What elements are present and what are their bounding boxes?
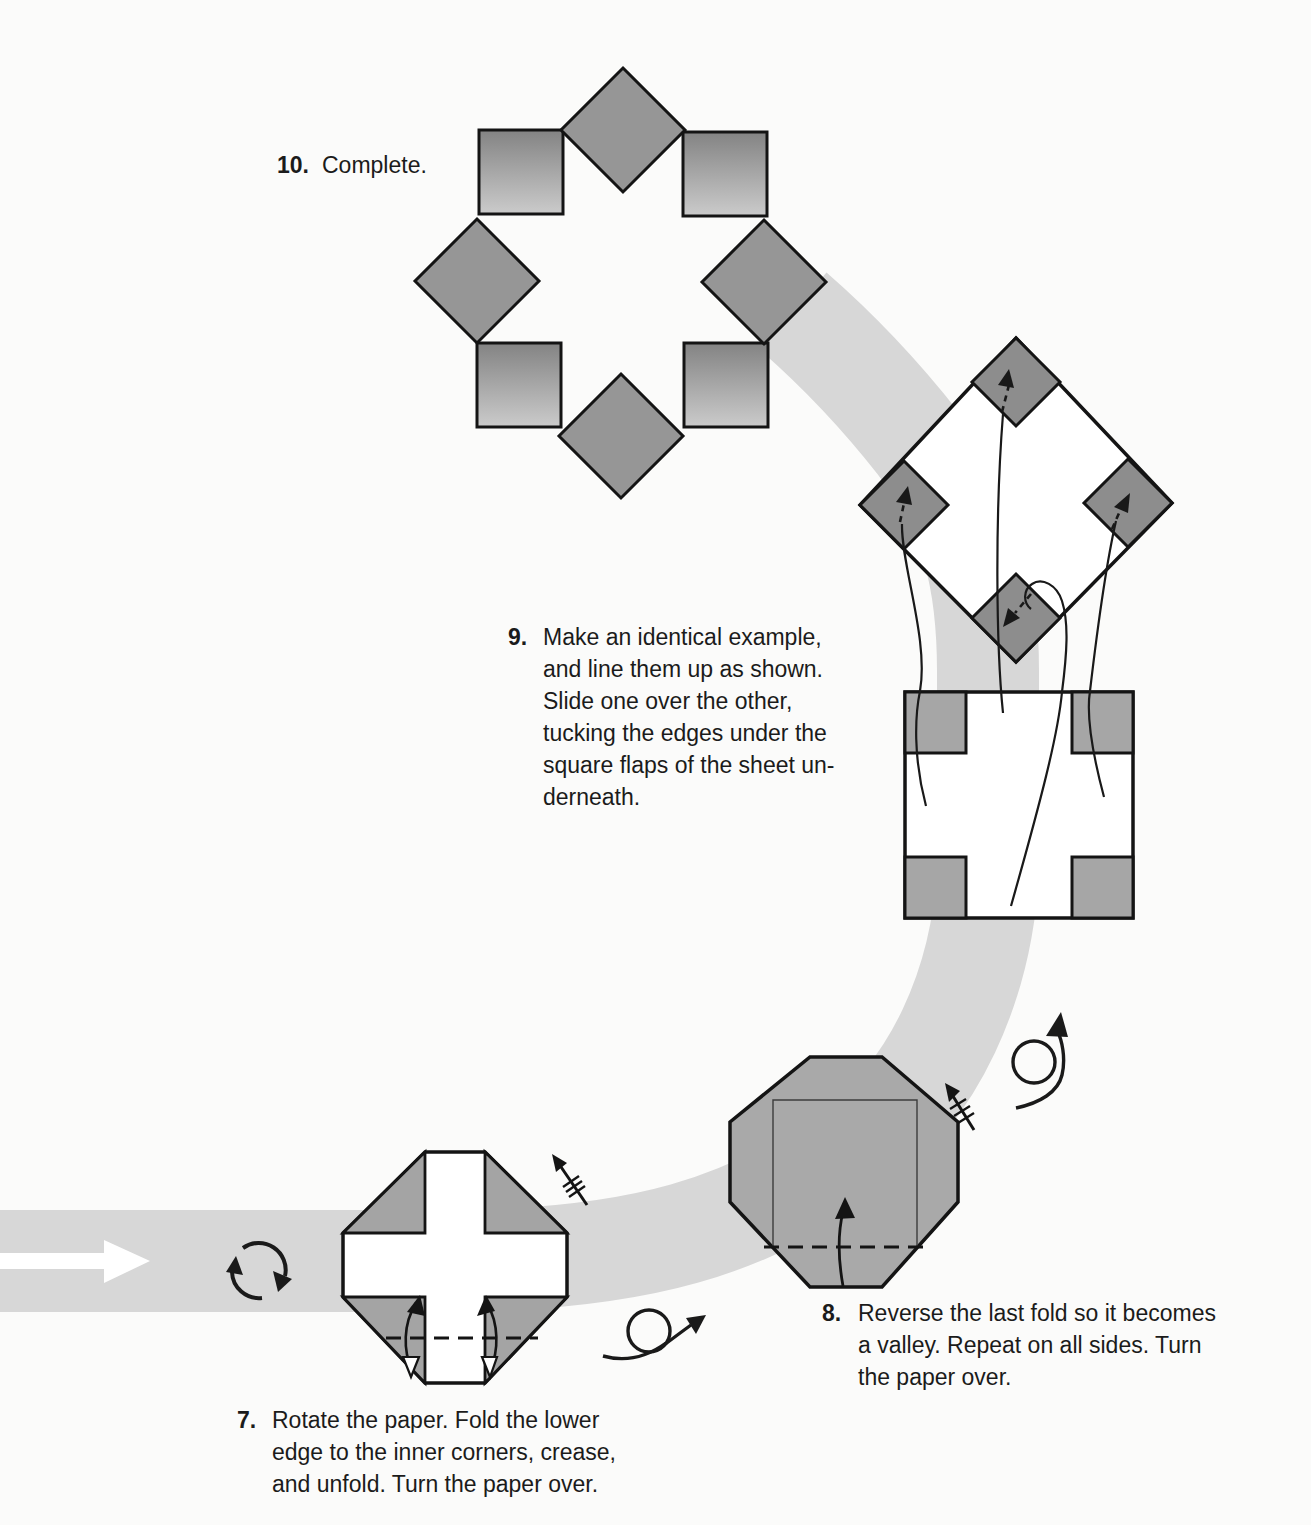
- step-10-caption: 10. Complete.: [277, 149, 427, 181]
- step-8-caption: 8. Reverse the last fold so it becomes a…: [822, 1297, 1216, 1393]
- step-text: Reverse the last fold so it becomes a va…: [858, 1297, 1216, 1393]
- step-text: Complete.: [322, 149, 427, 181]
- fold-unfold-repeat-icon-step7: [552, 1154, 587, 1205]
- step-number: 7.: [237, 1404, 256, 1436]
- turn-over-icon-step7: [603, 1310, 706, 1359]
- star-diamond-s: [559, 374, 683, 498]
- step9-lower-sheet-figure: [905, 692, 1133, 918]
- corner-triangle-tl: [343, 1152, 425, 1233]
- octagon-cross-outline: [343, 1152, 567, 1383]
- step-9-caption: 9. Make an identical example, and line t…: [508, 621, 835, 813]
- origami-instruction-page: 10. Complete. 9. Make an identical examp…: [0, 0, 1311, 1525]
- flap-square-nw: [905, 692, 966, 753]
- step-number: 10.: [277, 149, 309, 181]
- step-text: Make an identical example, and line them…: [543, 621, 835, 813]
- star-diamond-w: [415, 219, 539, 343]
- step-number: 8.: [822, 1297, 841, 1329]
- step-text: Rotate the paper. Fold the lower edge to…: [272, 1404, 616, 1500]
- star-square-nw: [479, 130, 563, 214]
- step7-octagon-figure: [343, 1152, 567, 1383]
- step-7-caption: 7. Rotate the paper. Fold the lower edge…: [237, 1404, 616, 1500]
- step-number: 9.: [508, 621, 527, 653]
- flap-square-ne: [1072, 692, 1133, 753]
- star-square-sw: [477, 343, 561, 427]
- star-square-se: [684, 343, 768, 427]
- star-square-ne: [683, 132, 767, 216]
- turn-over-icon-step8: [1013, 1012, 1068, 1108]
- star-diamond-n: [561, 68, 685, 192]
- flap-square-sw: [905, 857, 966, 918]
- step10-complete-star-figure: [415, 68, 826, 498]
- flap-square-se: [1072, 857, 1133, 918]
